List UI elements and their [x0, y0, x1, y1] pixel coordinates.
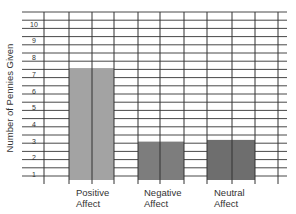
y-tick-label: 3 — [32, 138, 36, 145]
x-tick-label-line2: Affect — [76, 198, 100, 209]
bar-chart: 12345678910 Number of Pennies Given Posi… — [0, 0, 296, 214]
bars — [69, 68, 255, 180]
x-tick-label: Neutral — [214, 187, 245, 198]
y-tick-label: 10 — [30, 21, 38, 28]
x-tick-label: Positive — [76, 187, 109, 198]
y-tick-labels: 12345678910 — [30, 21, 38, 178]
x-tick-label-line2: Affect — [144, 198, 168, 209]
y-tick-label: 8 — [32, 54, 36, 61]
bar-neutral — [207, 140, 255, 180]
y-tick-label: 5 — [32, 104, 36, 111]
x-tick-labels: PositiveAffectNegativeAffectNeutralAffec… — [76, 187, 245, 209]
y-axis-label: Number of Pennies Given — [4, 44, 15, 153]
x-tick-label: Negative — [144, 187, 182, 198]
y-tick-label: 1 — [32, 171, 36, 178]
y-tick-label: 9 — [32, 37, 36, 44]
y-tick-label: 4 — [32, 121, 36, 128]
y-tick-label: 6 — [32, 88, 36, 95]
y-tick-label: 2 — [32, 154, 36, 161]
bar-negative — [138, 142, 184, 180]
y-tick-label: 7 — [32, 71, 36, 78]
x-tick-label-line2: Affect — [214, 198, 238, 209]
